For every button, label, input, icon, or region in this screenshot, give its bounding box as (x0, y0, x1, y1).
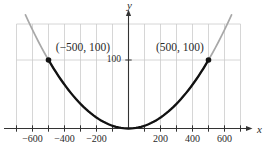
plot-canvas: −600 −400 −200 200 400 600 100 x y (−500… (0, 0, 267, 153)
x-tick-label-neg200: −200 (86, 133, 107, 144)
marked-point (206, 57, 212, 63)
x-axis-arrow-icon (246, 126, 253, 131)
axes-layer (4, 10, 253, 132)
y-tick-label-100: 100 (107, 54, 122, 64)
y-axis-label: y (126, 0, 132, 11)
x-tick-label-neg600: −600 (22, 133, 43, 144)
x-tick-label-600: 600 (217, 133, 232, 144)
x-tick-label-neg400: −400 (54, 133, 75, 144)
x-tick-label-200: 200 (153, 133, 168, 144)
point-label-500-100: (500, 100) (156, 41, 204, 54)
x-tick-label-400: 400 (185, 133, 200, 144)
parabola-chart: −600 −400 −200 200 400 600 100 x y (−500… (0, 0, 267, 153)
point-label-neg500-100: (−500, 100) (56, 41, 111, 54)
marked-point (46, 57, 52, 63)
x-axis-label: x (256, 123, 262, 135)
